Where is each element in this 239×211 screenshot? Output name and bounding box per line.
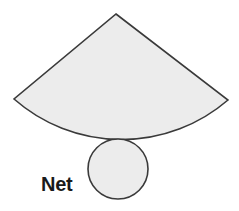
sector-shape <box>14 14 228 140</box>
cone-net-diagram <box>0 0 239 211</box>
net-label: Net <box>41 173 72 196</box>
base-circle-shape <box>88 139 148 199</box>
